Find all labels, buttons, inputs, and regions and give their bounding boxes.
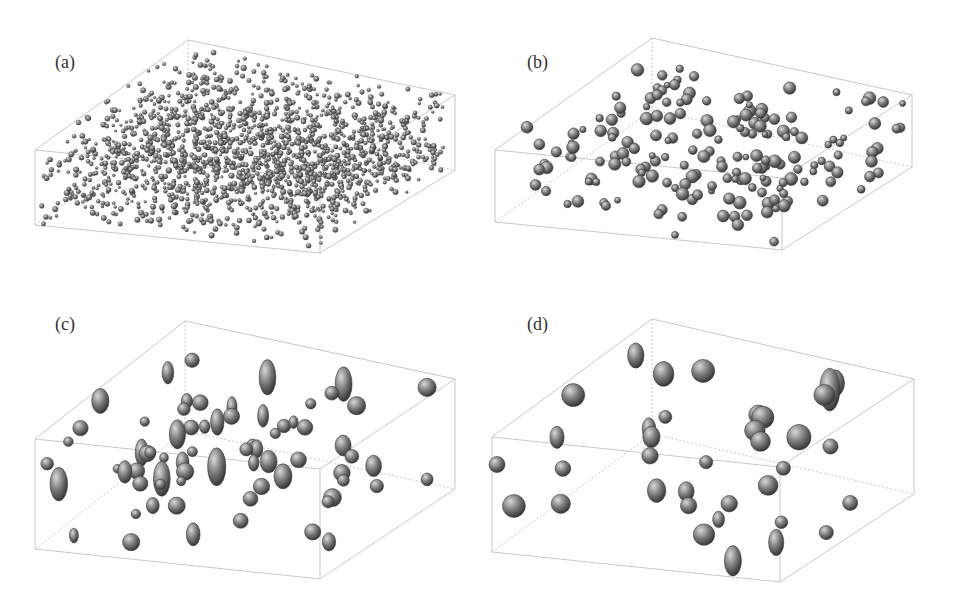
panel-a: (a)	[0, 0, 477, 298]
microstructure-render	[0, 0, 477, 298]
panel-c: (c)	[0, 299, 477, 597]
panel-d: (d)	[477, 299, 954, 597]
microstructure-render	[477, 0, 954, 298]
microstructure-render	[477, 299, 954, 597]
microstructure-render	[0, 299, 477, 597]
panel-b: (b)	[477, 0, 954, 298]
